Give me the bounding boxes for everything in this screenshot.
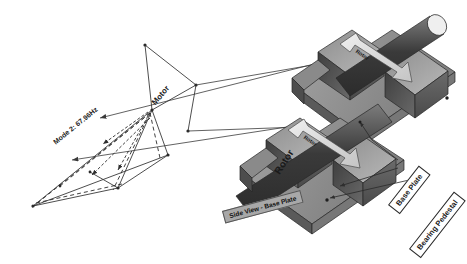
mode-nodes — [31, 43, 197, 207]
diagram-vector-layer — [0, 0, 467, 264]
lower-assembly-model — [236, 104, 404, 234]
upper-bolt-marker — [445, 96, 448, 99]
deformed-mode-shape — [30, 113, 160, 209]
undeformed-frame — [33, 45, 196, 206]
mode-shape-wireframe — [30, 43, 198, 209]
lower-bolt-marker — [325, 198, 328, 201]
diagram-canvas: Mode 2: 67.96Hz Motor Rotor Rotor Rotor … — [0, 0, 467, 264]
